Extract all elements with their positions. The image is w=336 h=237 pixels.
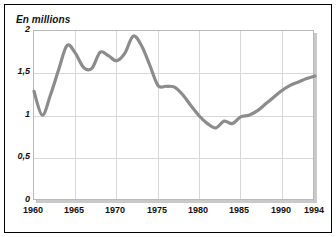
x-tick-1985: 1985 [219,205,259,215]
x-tick-1970: 1970 [95,205,135,215]
y-tick-0: 0 [4,194,30,204]
y-tick-1: 1 [4,109,30,119]
x-tick-1980: 1980 [178,205,218,215]
chart-figure: En millions 2 1,5 1 0,5 0 1960 1965 1970… [0,0,336,237]
plot-area [33,30,314,200]
x-tick-1994: 1994 [294,205,334,215]
y-tick-0-5: 0,5 [4,151,30,161]
y-tick-1-5: 1,5 [4,66,30,76]
y-axis: 2 1,5 1 0,5 0 [6,30,30,200]
x-tick-1960: 1960 [13,205,53,215]
x-tick-1965: 1965 [54,205,94,215]
x-axis: 1960 1965 1970 1975 1980 1985 1990 1994 [33,205,314,221]
x-tick-1975: 1975 [137,205,177,215]
series-line [34,31,315,201]
y-tick-2: 2 [4,24,30,34]
